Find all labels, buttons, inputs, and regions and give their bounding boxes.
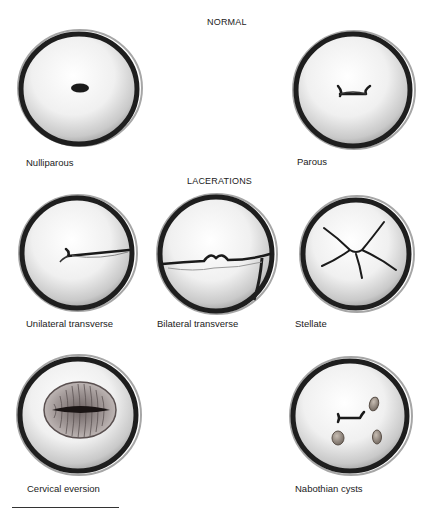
bilateral-transverse-cervix-illustration (154, 192, 280, 316)
nulliparous-cervix-illustration (14, 26, 148, 156)
section-title-normal: NORMAL (207, 17, 247, 27)
parous-cervix-illustration (290, 28, 418, 154)
unilateral-transverse-cervix-illustration (16, 192, 140, 314)
stellate-cervix-illustration (298, 194, 416, 314)
figure-label-cervical-eversion: Cervical eversion (27, 483, 100, 494)
nabothian-cysts-illustration (286, 354, 416, 478)
figure-label-nulliparous: Nulliparous (26, 157, 74, 168)
figure-label-nabothian-cysts: Nabothian cysts (295, 483, 363, 494)
figure-label-unilateral-transverse: Unilateral transverse (26, 318, 113, 329)
cervical-eversion-illustration (14, 352, 144, 478)
section-title-lacerations: LACERATIONS (187, 176, 252, 186)
figure-label-bilateral-transverse: Bilateral transverse (157, 318, 238, 329)
figure-label-stellate: Stellate (295, 318, 327, 329)
footnote-divider (12, 507, 119, 508)
figure-label-parous: Parous (297, 156, 327, 167)
